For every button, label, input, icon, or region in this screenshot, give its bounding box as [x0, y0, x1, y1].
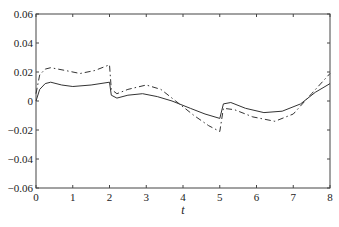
series-line-solid	[36, 82, 330, 118]
x-axis-label: t	[181, 203, 185, 217]
x-tick-label: 2	[107, 191, 113, 203]
y-tick-label: 0	[28, 95, 34, 107]
x-tick-label: 7	[291, 191, 297, 203]
y-tick-label: 0.06	[14, 8, 34, 20]
x-tick-label: 4	[180, 191, 186, 203]
y-tick-label: 0.02	[14, 66, 33, 78]
x-tick-label: 8	[327, 191, 333, 203]
y-tick-label: −0.02	[8, 124, 33, 136]
y-tick-label: −0.04	[8, 153, 34, 165]
x-tick-label: 6	[254, 191, 260, 203]
x-tick-label: 0	[33, 191, 39, 203]
line-chart: 0.060.040.020−0.02−0.04−0.06 012345678 t	[0, 0, 339, 227]
x-tick-label: 5	[217, 191, 223, 203]
y-axis-ticks: 0.060.040.020−0.02−0.04−0.06	[8, 8, 330, 194]
plot-frame	[36, 14, 330, 188]
y-tick-label: −0.06	[8, 182, 34, 194]
series-line-dashed	[36, 65, 330, 132]
data-series	[36, 65, 330, 132]
y-tick-label: 0.04	[14, 37, 34, 49]
plot-axes	[36, 14, 330, 188]
x-tick-label: 3	[144, 191, 150, 203]
x-tick-label: 1	[70, 191, 76, 203]
